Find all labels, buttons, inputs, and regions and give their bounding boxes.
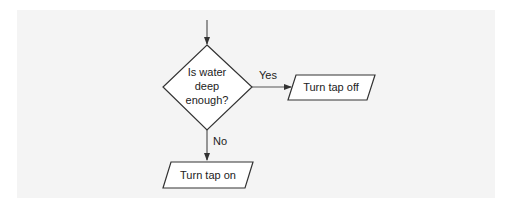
decision-line-1: Is water bbox=[188, 66, 227, 78]
turn-tap-off-node: Turn tap off bbox=[288, 75, 375, 100]
yes-label: Yes bbox=[259, 69, 277, 81]
turn-tap-off-label: Turn tap off bbox=[303, 81, 360, 93]
flowchart: Is water deep enough? Yes Turn tap off N… bbox=[0, 0, 511, 211]
decision-node: Is water deep enough? bbox=[163, 45, 252, 130]
turn-tap-on-node: Turn tap on bbox=[163, 162, 253, 188]
no-label: No bbox=[213, 135, 227, 147]
turn-tap-on-label: Turn tap on bbox=[180, 169, 236, 181]
decision-line-3: enough? bbox=[186, 94, 229, 106]
decision-line-2: deep bbox=[195, 80, 219, 92]
